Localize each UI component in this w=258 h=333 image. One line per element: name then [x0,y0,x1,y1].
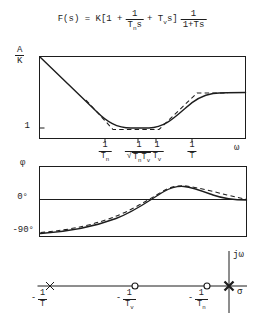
zero-label-minus-1-over-Tn: - 1 Tn [188,289,208,309]
fraction-denominator: T [187,151,196,162]
jw-axis-label: jω [233,251,244,261]
magnitude-ytick-label-1: 1 [19,122,30,132]
zero-label-minus-1-over-Tv: - 1 Tv [116,289,136,309]
fraction-numerator: 1 [131,9,138,19]
xtick-label-1-over-sqrt-TnTv: 1 √TnTv [125,141,153,162]
fraction-denominator: Tn [195,299,208,310]
xtick-label-1-over-Tn: 1 Tn [99,141,112,161]
bode-diagram-figure: F(s) = K[1 + 1 Tns + Tvs] 1 1+Ts A K 1 1… [0,0,258,333]
subscript-v: v [147,156,150,163]
fraction-numerator: 1 [135,141,142,151]
fraction-denominator: √TnTv [125,151,153,163]
symbol-s: s [137,20,142,30]
minus-sign: - [116,294,121,303]
fraction-numerator: 1 [153,141,160,151]
magnitude-asymptote-curve [86,93,228,130]
fraction-denominator: Tns [126,19,144,30]
fraction: 1 Tn [195,289,208,309]
subscript-v: v [130,303,133,310]
fraction-numerator: 1 [39,289,46,299]
fraction: 1 T [38,289,47,309]
pole-label-minus-1-over-T: - 1 T [31,289,47,309]
formula-fraction-1: 1 Tns [126,9,144,30]
formula-prefix: F(s) = K[1 + [58,15,123,25]
diagram-graphics [0,0,258,333]
fraction-denominator: Tn [99,151,112,162]
fraction-denominator: 1+Ts [181,19,207,30]
formula-middle: + Tvs] [147,15,178,25]
fraction-numerator: 1 [198,289,205,299]
phase-approx-curve [41,186,247,233]
fraction: 1 Tv [123,289,136,309]
subscript-v: v [158,155,161,162]
symbol-A: A [16,45,23,55]
symbol-K: K [15,55,24,66]
fraction-numerator: 1 [126,289,133,299]
minus-sign: - [31,294,36,303]
radical-expression: √TnTv [127,152,151,163]
xtick-label-1-over-Tv: 1 Tv [151,141,164,161]
transfer-function-formula: F(s) = K[1 + 1 Tns + Tvs] 1 1+Ts [58,9,207,30]
symbol-s-bracket: s] [167,14,178,24]
radicand-TnTv: TnTv [132,152,151,163]
fraction-numerator: 1 [188,141,195,151]
xtick-label-1-over-T: 1 T [187,141,196,161]
sigma-axis-label: σ [237,288,242,298]
fraction-numerator: 1 [190,9,197,19]
fraction-denominator: Tv [151,151,164,162]
formula-fraction-2: 1 1+Ts [181,9,207,30]
fraction-numerator: 1 [101,141,108,151]
magnitude-plot-frame [40,57,246,139]
phase-exact-curve [41,186,247,233]
subscript-n: n [106,155,109,162]
magnitude-ylabel-A-over-K: A K [15,45,24,66]
phase-tick-minus90deg: -90° [2,226,34,236]
phase-tick-0deg: 0° [9,193,28,203]
phase-plot-frame [40,167,247,237]
subscript-n: n [202,303,205,310]
symbol-T: T [40,299,45,309]
omega-axis-label: ω [234,144,239,154]
phase-ylabel-phi: φ [20,159,25,169]
minus-sign: - [188,294,193,303]
fraction-denominator: Tv [123,299,136,310]
symbol-plus-T: + T [147,14,163,24]
fraction-denominator: T [38,299,47,310]
